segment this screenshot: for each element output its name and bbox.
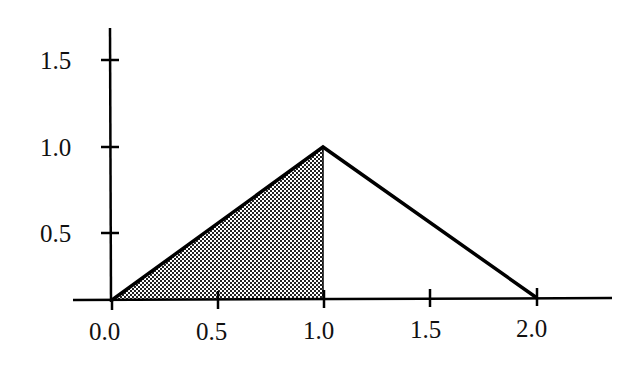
x-tick-label-0.5: 0.5 <box>196 318 227 345</box>
x-tick-label-1.5: 1.5 <box>410 316 441 343</box>
y-tick-label-0.5: 0.5 <box>40 220 71 247</box>
y-axis <box>110 28 111 302</box>
x-tick-label-1.0: 1.0 <box>303 317 334 344</box>
x-tick-label-2.0: 2.0 <box>516 315 547 342</box>
y-tick-label-1.5: 1.5 <box>40 47 71 74</box>
x-tick-label-0.0: 0.0 <box>89 318 120 345</box>
triangle-chart: 1.5 1.0 0.5 0.0 0.5 1.0 1.5 2.0 <box>0 0 639 365</box>
y-tick-label-1.0: 1.0 <box>40 134 71 161</box>
